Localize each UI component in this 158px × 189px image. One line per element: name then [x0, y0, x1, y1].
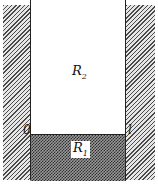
region-r1-label: R1 — [71, 141, 90, 158]
left-boundary-line — [30, 0, 31, 180]
left-hatched-wall — [3, 5, 30, 180]
r2-label-base: R — [72, 63, 82, 78]
right-hatched-wall — [126, 5, 155, 180]
right-boundary-line — [125, 0, 126, 180]
origin-label: 0 — [23, 124, 31, 136]
r2-label-subscript: 2 — [82, 72, 87, 81]
r1-label-base: R — [73, 140, 83, 155]
region-r2-label: R2 — [72, 64, 87, 81]
length-label: l — [128, 124, 132, 136]
r1-label-subscript: 1 — [83, 149, 88, 158]
